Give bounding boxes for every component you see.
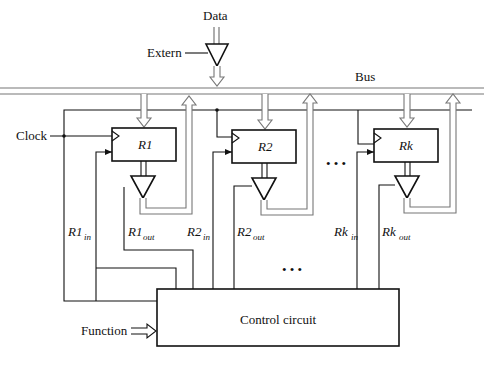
svg-text:in: in — [84, 232, 92, 242]
svg-text:out: out — [253, 232, 265, 242]
extern-buffer-icon — [206, 44, 228, 66]
function-arrow-icon — [131, 324, 156, 338]
bus-diagram: Data Extern Bus Clock R1 R1 in R1 out — [0, 0, 484, 367]
r2-out-buffer-icon — [252, 178, 276, 200]
r2-in-label: R2 — [186, 224, 202, 239]
register-r2: R2 — [213, 94, 317, 289]
extern-to-bus-arrow-icon — [210, 66, 224, 86]
registers-ellipsis: • • • — [326, 156, 346, 171]
r1-in-label: R1 — [67, 224, 82, 239]
register-rk: Rk — [357, 94, 460, 289]
rk-out-label: Rk — [381, 224, 396, 239]
r1-out-buffer-icon — [131, 176, 155, 198]
svg-text:out: out — [143, 232, 155, 242]
rk-out-buffer-icon — [395, 176, 419, 198]
function-label: Function — [81, 323, 128, 338]
register-r1: R1 — [96, 94, 196, 301]
control-ellipsis: • • • — [282, 262, 302, 277]
clock-label: Clock — [16, 128, 48, 143]
r1-label: R1 — [137, 137, 152, 152]
control-circuit-label: Control circuit — [240, 312, 317, 327]
rk-label: Rk — [398, 138, 413, 153]
r2-out-label: R2 — [236, 224, 252, 239]
clock-r2-line — [217, 110, 232, 137]
bus-label: Bus — [355, 69, 375, 84]
extern-label: Extern — [147, 45, 182, 60]
r1-out-label: R1 — [127, 224, 142, 239]
svg-text:in: in — [203, 232, 211, 242]
rk-in-arrow-icon — [367, 149, 374, 155]
data-label: Data — [203, 8, 228, 23]
svg-text:in: in — [351, 232, 359, 242]
r2-label: R2 — [257, 139, 273, 154]
rk-in-label: Rk — [333, 224, 348, 239]
r1-in-arrow-icon — [105, 149, 112, 155]
r2-bus-in-arrow-icon — [258, 94, 272, 129]
svg-text:out: out — [399, 232, 411, 242]
r2-in-arrow-icon — [225, 149, 232, 155]
clock-rk-line — [358, 110, 374, 144]
